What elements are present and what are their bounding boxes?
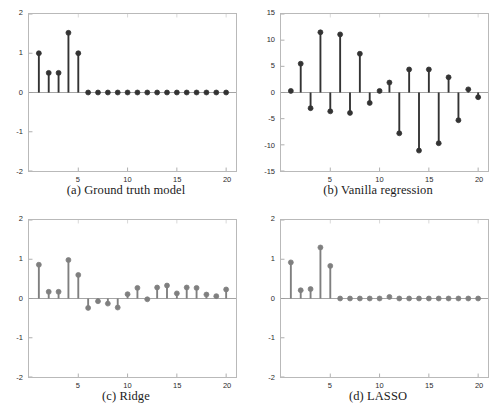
data-point-marker <box>194 90 199 95</box>
y-tick-label: 10 <box>252 36 275 44</box>
data-point-marker <box>387 294 392 299</box>
panel-caption-b: (b) Vanilla regression <box>252 183 504 198</box>
y-tick-label: -1 <box>252 335 275 343</box>
data-point-marker <box>348 296 353 301</box>
y-tick-label: 2 <box>0 9 23 17</box>
data-point-marker <box>417 148 422 153</box>
stem-series-c <box>29 220 236 377</box>
y-tick-label: -2 <box>252 374 275 382</box>
data-point-marker <box>105 301 110 306</box>
data-point-marker <box>407 296 412 301</box>
data-point-marker <box>46 289 51 294</box>
y-tick-label: 1 <box>252 255 275 263</box>
data-point-marker <box>46 70 51 75</box>
data-point-marker <box>288 88 293 93</box>
data-point-marker <box>36 262 41 267</box>
data-point-marker <box>135 285 140 290</box>
data-point-marker <box>56 70 61 75</box>
y-tick-label: 5 <box>252 62 275 70</box>
y-tick-label: 0 <box>252 295 275 303</box>
data-point-marker <box>318 245 323 250</box>
data-point-marker <box>466 87 471 92</box>
data-point-marker <box>66 258 71 263</box>
data-point-marker <box>194 285 199 290</box>
data-point-marker <box>224 90 229 95</box>
data-point-marker <box>338 32 343 37</box>
y-tick-label: 0 <box>0 89 23 97</box>
y-tick-label: 1 <box>0 255 23 263</box>
data-point-marker <box>125 292 130 297</box>
y-tick-label: -1 <box>0 129 23 137</box>
data-point-marker <box>298 288 303 293</box>
stem-series-b <box>281 14 488 171</box>
data-point-marker <box>145 90 150 95</box>
data-point-marker <box>328 263 333 268</box>
stem-series-a <box>29 14 236 171</box>
y-tick-label: -2 <box>0 168 23 176</box>
y-tick-label: 0 <box>0 295 23 303</box>
data-point-marker <box>214 90 219 95</box>
data-point-marker <box>357 51 362 56</box>
y-tick-label: -1 <box>0 335 23 343</box>
data-point-marker <box>204 90 209 95</box>
data-point-marker <box>476 95 481 100</box>
data-point-marker <box>436 141 441 146</box>
y-tick-label: -5 <box>252 115 275 123</box>
data-point-marker <box>105 90 110 95</box>
y-tick-label: -15 <box>252 168 275 176</box>
panel-lasso: 210-1-25101520 (d) LASSO <box>252 206 504 412</box>
data-point-marker <box>397 131 402 136</box>
data-point-marker <box>397 296 402 301</box>
data-point-marker <box>145 297 150 302</box>
data-point-marker <box>56 289 61 294</box>
y-tick-label: 0 <box>252 89 275 97</box>
data-point-marker <box>308 287 313 292</box>
y-tick-label: 1 <box>0 49 23 57</box>
data-point-marker <box>367 100 372 105</box>
data-point-marker <box>328 109 333 114</box>
data-point-marker <box>436 296 441 301</box>
panel-vanilla-regression: 151050-5-10-155101520 (b) Vanilla regres… <box>252 0 504 206</box>
data-point-marker <box>308 106 313 111</box>
data-point-marker <box>224 287 229 292</box>
plot-area-c <box>28 219 237 378</box>
data-point-marker <box>298 61 303 66</box>
data-point-marker <box>165 283 170 288</box>
data-point-marker <box>66 30 71 35</box>
data-point-marker <box>86 90 91 95</box>
data-point-marker <box>115 305 120 310</box>
stem-series-d <box>281 220 488 377</box>
panel-caption-c: (c) Ridge <box>0 389 252 404</box>
y-tick-label: 2 <box>0 215 23 223</box>
data-point-marker <box>377 296 382 301</box>
data-point-marker <box>456 296 461 301</box>
data-point-marker <box>76 272 81 277</box>
data-point-marker <box>174 90 179 95</box>
data-point-marker <box>204 292 209 297</box>
y-tick-label: 2 <box>252 215 275 223</box>
y-tick-label: -2 <box>0 374 23 382</box>
data-point-marker <box>417 296 422 301</box>
data-point-marker <box>348 110 353 115</box>
data-point-marker <box>466 296 471 301</box>
data-point-marker <box>446 296 451 301</box>
data-point-marker <box>165 90 170 95</box>
plot-area-a <box>28 13 237 172</box>
data-point-marker <box>387 80 392 85</box>
data-point-marker <box>288 260 293 265</box>
plot-area-d <box>280 219 489 378</box>
data-point-marker <box>338 296 343 301</box>
y-tick-label: -10 <box>252 142 275 150</box>
data-point-marker <box>125 90 130 95</box>
plot-area-b <box>280 13 489 172</box>
data-point-marker <box>407 67 412 72</box>
data-point-marker <box>184 285 189 290</box>
data-point-marker <box>76 51 81 56</box>
data-point-marker <box>426 296 431 301</box>
data-point-marker <box>174 291 179 296</box>
data-point-marker <box>36 51 41 56</box>
figure-stem-plot-grid: 210-1-25101520 (a) Ground truth model 15… <box>0 0 504 412</box>
data-point-marker <box>155 285 160 290</box>
data-point-marker <box>377 88 382 93</box>
data-point-marker <box>318 30 323 35</box>
